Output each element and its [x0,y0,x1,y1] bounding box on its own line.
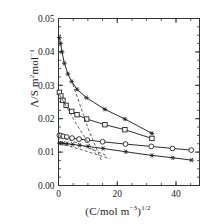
y-tick-label: 0.04 [38,47,55,57]
data-point-asterisk [123,150,128,154]
data-point-asterisk [170,156,175,160]
y-tick-label: 0.05 [38,14,55,24]
x-tick-label: 0 [56,189,61,199]
data-point-square [123,128,127,132]
data-point-square [150,136,154,140]
data-point-circle [149,144,154,149]
data-point-circle [77,137,82,142]
data-point-circle [100,139,105,144]
data-point-asterisk [150,131,155,135]
y-tick-label: 0.02 [38,114,55,124]
data-point-square [103,123,107,127]
plot-frame [59,19,200,186]
x-tick-label: 40 [171,189,181,199]
y-tick-label: 0.03 [38,81,55,91]
y-axis-label: Λ/S m2mol−1 [28,18,41,138]
data-point-asterisk [101,146,106,150]
data-point-circle [189,148,194,153]
series-series-3-circle [57,133,194,152]
data-point-asterisk [189,158,194,162]
x-tick-label: 20 [113,189,123,199]
data-point-circle [123,142,128,147]
data-point-circle [170,146,175,151]
figure: 020400.000.010.020.030.040.05 Λ/S m2mol−… [0,0,212,224]
series-series-2-square [57,90,154,140]
data-point-square [75,112,79,116]
y-tick-label: 0.00 [38,181,55,191]
series-line [59,92,152,138]
x-axis-label: (C/mol m−3)1/2 [0,204,212,217]
series-series-1-top-asterisk [57,35,154,135]
data-point-asterisk [150,153,155,157]
data-point-asterisk [122,117,127,121]
y-tick-label: 0.01 [38,147,55,157]
data-point-asterisk [70,142,75,146]
